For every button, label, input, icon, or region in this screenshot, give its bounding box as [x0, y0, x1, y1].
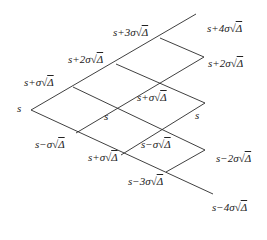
label-radicand: Δ: [111, 151, 117, 163]
node-label-s-mid: s: [104, 110, 108, 122]
label-text: s−3σ: [128, 175, 151, 187]
label-radicand: Δ: [160, 91, 166, 103]
label-radicand: Δ: [245, 152, 251, 164]
label-text: s: [17, 102, 21, 114]
node-label-s-minus-4sigma: s−4σ√Δ: [212, 201, 247, 213]
label-text: s: [195, 109, 199, 121]
label-text: s+2σ: [68, 53, 91, 65]
label-text: s+2σ: [208, 57, 231, 69]
label-text: s−σ: [35, 138, 52, 150]
label-text: s+3σ: [113, 26, 136, 38]
label-radicand: Δ: [241, 201, 247, 213]
label-radicand: Δ: [237, 57, 243, 69]
label-text: s+σ: [24, 76, 41, 88]
node-label-s-plus-2sigma: s+2σ√Δ: [68, 53, 103, 65]
node-label-s-minus-2sigma: s−2σ√Δ: [216, 152, 251, 164]
label-radicand: Δ: [47, 76, 53, 88]
label-radicand: Δ: [157, 175, 163, 187]
label-radicand: Δ: [97, 53, 103, 65]
label-text: s−σ: [141, 138, 158, 150]
node-label-s-plus-sigma-c: s+σ√Δ: [137, 91, 167, 103]
label-radicand: Δ: [236, 22, 242, 34]
node-label-s-plus-sigma-b: s+σ√Δ: [88, 151, 118, 163]
node-label-s-plus-3sigma: s+3σ√Δ: [113, 26, 148, 38]
label-text: s−2σ: [216, 152, 239, 164]
label-text: s: [104, 110, 108, 122]
node-label-s-minus-sigma: s−σ√Δ: [35, 138, 65, 150]
label-radicand: Δ: [58, 138, 64, 150]
label-text: s+4σ: [207, 22, 230, 34]
node-label-s-plus-sigma: s+σ√Δ: [24, 76, 54, 88]
label-text: s+σ: [88, 151, 105, 163]
node-label-s-plus-4sigma: s+4σ√Δ: [207, 22, 242, 34]
label-radicand: Δ: [164, 138, 170, 150]
node-label-s-minus-3sigma: s−3σ√Δ: [128, 175, 163, 187]
node-label-s-plus-2sigma-b: s+2σ√Δ: [208, 57, 243, 69]
node-label-s-root: s: [17, 102, 21, 114]
label-text: s+σ: [137, 91, 154, 103]
node-label-s-right: s: [195, 109, 199, 121]
edge: [166, 150, 205, 172]
edge: [31, 110, 213, 194]
label-text: s−4σ: [212, 201, 235, 213]
edge: [160, 38, 204, 57]
label-radicand: Δ: [142, 26, 148, 38]
node-label-s-minus-sigma-b: s−σ√Δ: [141, 138, 171, 150]
